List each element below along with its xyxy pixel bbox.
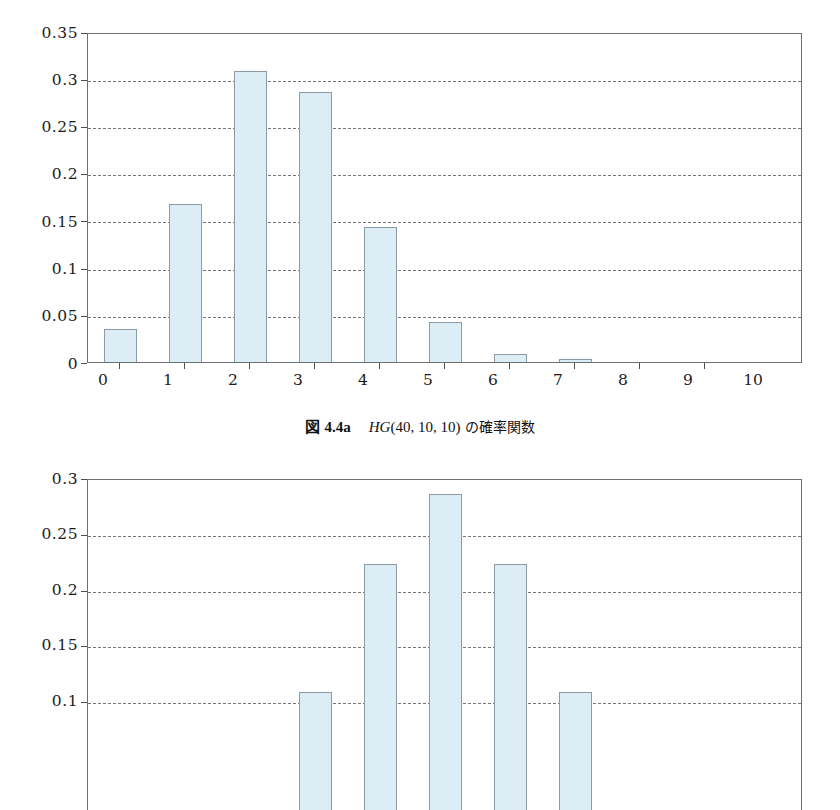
chart-a-gridline-0.2 — [88, 175, 801, 176]
chart-a-ytick-label-0.35: 0.35 — [14, 26, 78, 42]
caption-fig-word: 図 — [305, 419, 320, 435]
chart-a-xtick-label-4: 4 — [333, 373, 393, 389]
chart-a-bar-4 — [364, 227, 397, 362]
chart-a-xtick-label-1: 1 — [138, 373, 198, 389]
chart-a-bar-2 — [234, 71, 267, 362]
chart-a-xtick-label-7: 7 — [528, 373, 588, 389]
caption-distribution-args: (40, 10, 10) — [390, 419, 460, 435]
chart-a-xtick-label-0: 0 — [73, 373, 133, 389]
chart-a-xtick-label-5: 5 — [398, 373, 458, 389]
chart-a-ytick-mark — [81, 363, 87, 364]
chart-a-ytick-label-0.3: 0.3 — [14, 73, 78, 89]
chart-a-ytick-label-0.25: 0.25 — [14, 120, 78, 136]
chart-b-bar-4 — [364, 564, 397, 810]
chart-a-xtick-label-10: 10 — [723, 373, 783, 389]
chart-a-xtick-label-6: 6 — [463, 373, 523, 389]
chart-a-xtick-mark — [249, 363, 250, 369]
chart-b-ytick-label-0.1: 0.1 — [14, 694, 78, 710]
chart-a-xtick-mark — [314, 363, 315, 369]
chart-b-ytick-label-0.3: 0.3 — [14, 472, 78, 488]
chart-a-bar-1 — [169, 204, 202, 362]
chart-b-plot-area — [87, 479, 802, 810]
chart-a-xtick-mark — [639, 363, 640, 369]
chart-b-ytick-label-0.15: 0.15 — [14, 638, 78, 654]
chart-a-xtick-mark — [184, 363, 185, 369]
chart-a-ytick-label-0: 0 — [14, 357, 78, 373]
chart-b-ytick-label-0.25: 0.25 — [14, 527, 78, 543]
chart-a-xtick-label-3: 3 — [268, 373, 328, 389]
chart-a-gridline-0.25 — [88, 128, 801, 129]
chart-a-plot-area — [87, 33, 802, 363]
chart-a-bar-6 — [494, 354, 527, 362]
chart-a-xtick-mark — [444, 363, 445, 369]
chart-a-bar-5 — [429, 322, 462, 362]
chart-b-bar-5 — [429, 494, 462, 810]
figure-a-caption: 図4.4aHG(40, 10, 10)の確率関数 — [0, 415, 840, 436]
chart-a-xtick-label-2: 2 — [203, 373, 263, 389]
chart-a-bar-7 — [559, 359, 592, 362]
figure-4-4a: 0.35 0.3 0.25 0.2 0.15 0.1 0.05 0 — [0, 0, 840, 400]
chart-a-ytick-label-0.2: 0.2 — [14, 167, 78, 183]
chart-b-bar-3 — [299, 692, 332, 810]
chart-a-bar-3 — [299, 92, 332, 362]
chart-a-xtick-mark — [574, 363, 575, 369]
chart-a-ytick-label-0.15: 0.15 — [14, 215, 78, 231]
caption-distribution-symbol: HG — [369, 419, 391, 435]
chart-a-xtick-mark — [509, 363, 510, 369]
chart-a-xtick-label-8: 8 — [593, 373, 653, 389]
chart-b-bar-6 — [494, 564, 527, 810]
caption-tail-text: の確率関数 — [465, 419, 535, 435]
caption-figure-number: 4.4a — [325, 419, 351, 435]
chart-a-ytick-label-0.1: 0.1 — [14, 262, 78, 278]
chart-b-bar-7 — [559, 692, 592, 810]
chart-a-xtick-mark — [704, 363, 705, 369]
figure-4-4b: 0.3 0.25 0.2 0.15 0.1 — [0, 460, 840, 746]
chart-a-bar-0 — [104, 329, 137, 362]
chart-b-ytick-label-0.2: 0.2 — [14, 583, 78, 599]
chart-a-gridline-0.3 — [88, 81, 801, 82]
chart-a-ytick-label-0.05: 0.05 — [14, 309, 78, 325]
chart-a-xtick-mark — [379, 363, 380, 369]
chart-a-xtick-label-9: 9 — [658, 373, 718, 389]
chart-a-xtick-mark — [119, 363, 120, 369]
